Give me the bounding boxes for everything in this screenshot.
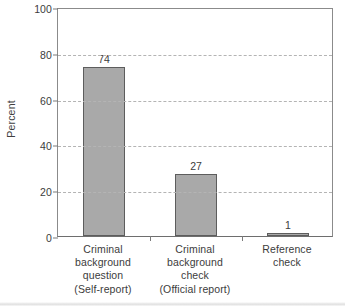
x-tick-mark bbox=[242, 236, 243, 241]
bar: 74 bbox=[83, 67, 125, 236]
y-tick-mark bbox=[53, 238, 58, 239]
x-axis-label-line: Criminal bbox=[149, 243, 241, 256]
y-tick-label: 80 bbox=[40, 49, 52, 61]
x-tick-mark bbox=[150, 236, 151, 241]
y-tick-label: 0 bbox=[46, 232, 52, 244]
x-axis-label-line: Reference bbox=[241, 243, 333, 256]
y-tick-mark bbox=[53, 146, 58, 147]
bar-value-label: 1 bbox=[285, 219, 291, 231]
gridline bbox=[58, 192, 332, 193]
x-axis-category-label: Referencecheck bbox=[241, 243, 333, 269]
bars-layer: 74271 bbox=[58, 9, 332, 236]
x-axis-category-label: Criminalbackgroundcheck(Official report) bbox=[149, 243, 241, 296]
gridline bbox=[58, 55, 332, 56]
bar-value-label: 27 bbox=[190, 160, 202, 172]
scan-artifact bbox=[0, 302, 345, 306]
bar: 1 bbox=[267, 233, 309, 237]
x-axis-label-line: (Official report) bbox=[149, 283, 241, 296]
gridline bbox=[58, 146, 332, 147]
y-axis-title: Percent bbox=[5, 74, 17, 164]
x-axis-labels: Criminalbackgroundquestion(Self-report)C… bbox=[57, 243, 333, 303]
y-tick-mark bbox=[53, 54, 58, 55]
y-tick-mark bbox=[53, 9, 58, 10]
y-tick-label: 20 bbox=[40, 186, 52, 198]
x-axis-label-line: (Self-report) bbox=[57, 283, 149, 296]
x-axis-label-line: background bbox=[149, 256, 241, 269]
bar-chart: Percent 74271 020406080100 Criminalbackg… bbox=[0, 0, 345, 306]
y-tick-mark bbox=[53, 100, 58, 101]
y-tick-mark bbox=[53, 192, 58, 193]
y-tick-label: 60 bbox=[40, 95, 52, 107]
y-tick-label: 40 bbox=[40, 140, 52, 152]
gridline bbox=[58, 101, 332, 102]
plot-area: 74271 020406080100 bbox=[57, 8, 333, 237]
x-axis-category-label: Criminalbackgroundquestion(Self-report) bbox=[57, 243, 149, 296]
y-tick-label: 100 bbox=[34, 3, 52, 15]
x-axis-label-line: Criminal bbox=[57, 243, 149, 256]
x-axis-label-line: check bbox=[241, 256, 333, 269]
x-axis-label-line: check bbox=[149, 269, 241, 282]
bar: 27 bbox=[175, 174, 217, 236]
x-axis-label-line: background bbox=[57, 256, 149, 269]
x-axis-label-line: question bbox=[57, 269, 149, 282]
